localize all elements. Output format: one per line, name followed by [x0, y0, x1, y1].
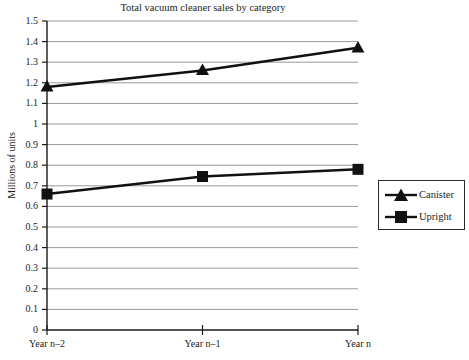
legend-label-upright: Upright [419, 210, 452, 223]
y-tick-label: 0.7 [4, 181, 38, 191]
data-series-layer [41, 41, 365, 200]
y-tick-label: 1.3 [4, 57, 38, 67]
y-tick-label: 1.5 [4, 16, 38, 26]
y-tick-label: 1.2 [4, 78, 38, 88]
data-point-marker [197, 171, 208, 182]
y-tick-label: 1.1 [4, 98, 38, 108]
y-tick-label: 0.3 [4, 263, 38, 273]
chart-container: Total vacuum cleaner sales by category M… [0, 0, 469, 360]
chart-legend: Canister Upright [378, 180, 465, 230]
y-axis-ticks [42, 21, 47, 330]
y-tick-label: 0.6 [4, 201, 38, 211]
square-marker-icon [385, 206, 417, 228]
y-tick-label: 0 [4, 325, 38, 335]
y-tick-label: 0.8 [4, 160, 38, 170]
data-point-marker [353, 164, 364, 175]
data-point-marker [42, 189, 53, 200]
triangle-marker-icon [385, 184, 417, 206]
y-tick-label: 0.9 [4, 140, 38, 150]
legend-item-upright[interactable]: Upright [379, 206, 466, 228]
y-tick-label: 0.4 [4, 243, 38, 253]
x-tick-label: Year n–1 [163, 338, 243, 349]
y-tick-label: 0.1 [4, 304, 38, 314]
y-tick-label: 0.2 [4, 284, 38, 294]
y-tick-label: 0.5 [4, 222, 38, 232]
data-point-marker [352, 41, 365, 52]
legend-label-canister: Canister [419, 188, 454, 201]
y-tick-label: 1 [4, 119, 38, 129]
y-tick-label: 1.4 [4, 37, 38, 47]
legend-item-canister[interactable]: Canister [379, 184, 466, 206]
x-tick-label: Year n–2 [7, 338, 87, 349]
x-tick-label: Year n [318, 338, 398, 349]
